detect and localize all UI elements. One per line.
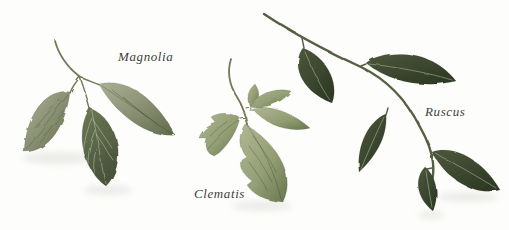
clematis-sprig — [199, 59, 310, 202]
ruscus-stem — [264, 14, 433, 184]
ruscus-leaf-top-right — [366, 54, 456, 85]
shadow-ruscus-right — [438, 192, 498, 202]
shadow-magnolia-mid — [84, 185, 132, 195]
magnolia-leaf-middle — [82, 108, 118, 186]
clematis-label: Clematis — [194, 186, 245, 202]
ruscus-label: Ruscus — [425, 104, 465, 120]
magnolia-label: Magnolia — [118, 49, 173, 65]
ruscus-leaf-lower-right — [432, 150, 500, 191]
clematis-leaflet-mid-right — [252, 107, 310, 129]
botanical-plate: Magnolia Clematis Ruscus — [0, 0, 509, 230]
shadow-clematis — [232, 201, 292, 211]
shadow-ruscus-tip — [418, 211, 444, 219]
magnolia-petioles — [70, 77, 100, 109]
clematis-leaflet-lower — [241, 125, 288, 202]
magnolia-stem — [55, 41, 80, 77]
